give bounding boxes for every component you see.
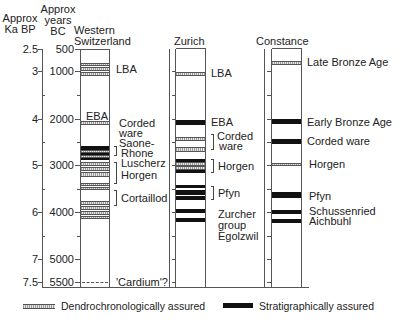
strat-band <box>176 120 205 125</box>
ka-bp-axis <box>42 49 43 287</box>
dendro-band <box>81 67 109 71</box>
ka-tick-7-5: 7.5 <box>10 277 38 288</box>
ka-tick-2-5: 2.5 <box>10 44 38 55</box>
dendro-band <box>176 72 205 76</box>
zurich-column <box>176 48 206 288</box>
dendro-band <box>81 201 109 205</box>
constance-label-corded: Corded ware <box>307 136 370 146</box>
zurich-label-lba: LBA <box>211 68 232 78</box>
ws-label-luscherz: Luscherz <box>121 158 166 168</box>
ka-tick-6: 6 <box>10 207 38 218</box>
constance-tick <box>267 71 271 72</box>
ka-tick-mark <box>38 212 43 213</box>
constance-header: Constance <box>256 36 316 47</box>
legend-dendro-swatch <box>23 304 55 309</box>
constance-label-pfyn: Pfyn <box>309 191 331 201</box>
ws-label-cardium: 'Cardium'? <box>116 277 168 287</box>
ws-brace-horgen <box>114 162 117 184</box>
constance-tick <box>267 189 271 190</box>
ka-tick-mark <box>38 49 43 50</box>
zurich-label-horgen: Horgen <box>218 161 254 171</box>
constance-tick <box>267 119 271 120</box>
ka-bp-header-line2: Ka BP <box>0 24 40 35</box>
years-bc-header-line3: BC <box>38 26 78 37</box>
ka-tick-7: 7 <box>10 254 38 265</box>
bc-tick-1000: 1000 <box>44 66 74 77</box>
constance-label-aichbuhl: Aichbuhl <box>309 216 351 226</box>
constance-tick <box>267 236 271 237</box>
bc-tick-4000: 4000 <box>44 207 74 218</box>
ws-label-lba: LBA <box>116 64 137 74</box>
ka-tick-mark <box>42 95 45 96</box>
constance-label-horgen: Horgen <box>309 159 345 169</box>
ka-tick-mark <box>38 71 43 72</box>
zurich-brace-pfyn <box>211 186 214 200</box>
ka-tick-mark <box>42 142 45 143</box>
strat-band <box>272 119 301 124</box>
ws-label-horgen: Horgen <box>121 170 157 180</box>
dendro-band <box>81 72 109 76</box>
strat-band <box>272 219 301 223</box>
dendro-band <box>81 63 109 66</box>
bc-tick-500: 500 <box>44 44 74 55</box>
dendro-band <box>81 162 109 166</box>
zurich-label-ware: ware <box>219 141 243 151</box>
dendro-band <box>81 211 109 215</box>
constance-tick <box>267 212 271 213</box>
western-switzerland-header: Western Switzerland <box>74 25 122 47</box>
constance-tick <box>267 282 271 283</box>
legend-dendro-label: Dendrochronologically assured <box>61 301 205 312</box>
strat-band <box>81 158 109 160</box>
ka-tick-mark <box>42 189 45 190</box>
bc-tick-2000: 2000 <box>44 114 74 125</box>
zurich-label-eba: EBA <box>211 117 233 127</box>
dendro-band <box>81 216 109 219</box>
dendro-band <box>81 167 109 171</box>
strat-band <box>176 209 205 213</box>
zurich-label-frame-right <box>264 49 265 288</box>
constance-label-eba: Early Bronze Age <box>307 117 392 127</box>
constance-tick <box>267 165 271 166</box>
western-switzerland-column <box>80 49 110 288</box>
dendro-band <box>272 61 301 65</box>
ka-tick-mark <box>38 259 43 260</box>
strat-band <box>176 196 205 200</box>
dendro-band <box>81 187 109 190</box>
zurich-label-egolzwil: Egolzwil <box>218 231 258 241</box>
constance-tick <box>267 259 271 260</box>
ws-brace-saone-rhone <box>114 146 117 156</box>
dendro-band <box>272 163 301 166</box>
ws-label-cortaillod: Cortaillod <box>121 193 167 203</box>
bc-tick-3000: 3000 <box>44 160 74 171</box>
constance-label-lba: Late Bronze Age <box>307 57 388 67</box>
years-bc-header: Approx years BC <box>38 4 78 37</box>
ka-tick-5: 5 <box>10 160 38 171</box>
cardium-dashed-line <box>82 282 108 283</box>
zurich-header: Zurich <box>174 36 210 47</box>
ka-tick-3: 3 <box>10 66 38 77</box>
dendro-band <box>81 206 109 210</box>
strat-band <box>272 210 301 214</box>
ws-header-line2: Switzerland <box>74 36 122 47</box>
dendro-band <box>81 183 109 186</box>
zurich-brace-corded <box>211 134 214 150</box>
strat-band <box>176 170 205 173</box>
ws-label-frame-right <box>169 49 170 288</box>
ws-label-eba: EBA <box>86 111 108 121</box>
strat-band <box>272 139 301 144</box>
zurich-brace-horgen <box>211 159 214 173</box>
zurich-label-pfyn: Pfyn <box>218 188 240 198</box>
constance-column <box>272 48 302 288</box>
strat-band <box>272 192 301 198</box>
zurich-label-zurcher: Zurcher <box>218 209 256 219</box>
legend-strat-swatch <box>223 303 253 308</box>
strat-band <box>176 190 205 195</box>
dendro-band <box>176 137 205 141</box>
dendro-band <box>81 172 109 177</box>
ka-tick-mark <box>38 119 43 120</box>
dendro-band <box>176 147 205 152</box>
constance-tick <box>267 95 271 96</box>
ka-tick-mark <box>38 165 43 166</box>
ka-tick-mark <box>42 236 45 237</box>
ka-tick-mark <box>38 282 43 283</box>
